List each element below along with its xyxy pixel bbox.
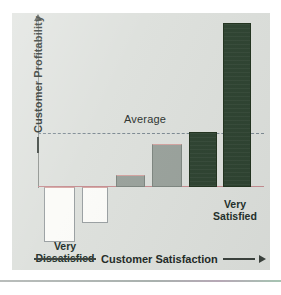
chart-page: Average Very Dissatisfied Very Satisfied…	[0, 0, 281, 295]
x-axis-title-rule-left	[34, 258, 96, 260]
bar-1-very-dissatisfied	[44, 187, 75, 242]
y-axis-title-rule	[37, 137, 39, 153]
page-divider-rule	[0, 280, 281, 282]
bar-5	[189, 132, 217, 187]
y-axis-title: Customer Profitability	[28, 13, 48, 153]
x-axis-title-rule-right	[223, 258, 255, 260]
x-axis-title-text: Customer Satisfaction	[101, 253, 218, 265]
category-label-very-satisfied: Very Satisfied	[200, 199, 270, 222]
y-axis-title-text: Customer Profitability	[32, 16, 44, 133]
bar-3	[116, 175, 145, 187]
chart-panel: Average Very Dissatisfied Very Satisfied…	[12, 13, 270, 270]
average-label: Average	[124, 113, 166, 125]
bar-4	[152, 144, 182, 187]
bar-6-very-satisfied	[223, 23, 251, 187]
x-axis-arrow-icon	[259, 255, 266, 263]
x-axis-title: Customer Satisfaction	[34, 251, 266, 267]
bar-2	[82, 187, 108, 223]
